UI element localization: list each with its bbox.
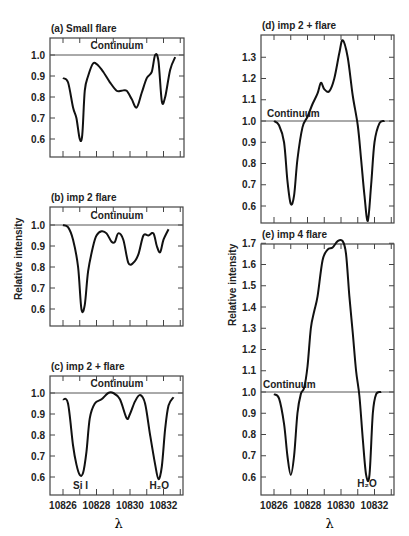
- y-axis-label-left: Relative intensity: [13, 217, 24, 300]
- y-tick-label: 0.7: [242, 450, 256, 461]
- h2o-line-label: H₂O: [357, 478, 377, 489]
- panel-frame: [261, 244, 394, 495]
- y-tick-label: 0.8: [242, 429, 256, 440]
- panel-title: (d) imp 2 + flare: [262, 20, 337, 31]
- spectral-line-figure: (a) Small flare0.60.70.80.91.0Continuum(…: [0, 0, 409, 536]
- y-axis-label-right: Relative intensity: [227, 243, 238, 326]
- y-tick-label: 1.0: [242, 116, 256, 127]
- y-tick-label: 1.5: [242, 280, 256, 291]
- x-axis-label: λ: [325, 516, 333, 531]
- y-tick-label: 1.0: [242, 387, 256, 398]
- y-tick-label: 0.6: [31, 472, 45, 483]
- spectrum-curve: [274, 240, 381, 481]
- y-tick-label: 1.6: [242, 259, 256, 270]
- x-tick-label: 10826: [49, 500, 77, 511]
- y-tick-label: 1.1: [242, 365, 256, 376]
- y-tick-label: 0.6: [242, 201, 256, 212]
- spectrum-curve: [274, 40, 385, 221]
- y-tick-label: 0.9: [31, 71, 45, 82]
- x-axis-label: λ: [114, 516, 122, 531]
- y-tick-label: 0.6: [242, 472, 256, 483]
- y-tick-label: 0.7: [31, 451, 45, 462]
- continuum-label: Continuum: [263, 379, 316, 390]
- y-tick-label: 0.6: [31, 304, 45, 315]
- spectrum-curve: [63, 225, 169, 312]
- x-tick-label: 10830: [116, 500, 144, 511]
- si-line-label: Si I: [73, 480, 88, 491]
- continuum-label: Continuum: [91, 210, 144, 221]
- x-tick-label: 10830: [327, 500, 355, 511]
- y-tick-label: 0.9: [31, 409, 45, 420]
- panel-title: (b) imp 2 flare: [51, 192, 117, 203]
- y-tick-label: 1.3: [242, 323, 256, 334]
- x-tick-label: 10828: [83, 500, 111, 511]
- y-tick-label: 1.0: [31, 388, 45, 399]
- y-tick-label: 0.7: [242, 179, 256, 190]
- x-tick-label: 10832: [150, 500, 178, 511]
- y-tick-label: 1.7: [242, 238, 256, 249]
- y-tick-label: 0.8: [31, 92, 45, 103]
- x-tick-label: 10826: [260, 500, 288, 511]
- y-tick-label: 0.6: [31, 134, 45, 145]
- continuum-label: Continuum: [91, 378, 144, 389]
- y-tick-label: 1.2: [242, 344, 256, 355]
- y-tick-label: 1.0: [31, 220, 45, 231]
- continuum-label: Continuum: [267, 108, 320, 119]
- panel-title: (c) imp 2 + flare: [51, 361, 125, 372]
- y-tick-label: 0.9: [242, 137, 256, 148]
- y-tick-label: 1.1: [242, 94, 256, 105]
- y-tick-label: 1.4: [242, 302, 256, 313]
- y-tick-label: 0.8: [242, 158, 256, 169]
- y-tick-label: 0.8: [31, 262, 45, 273]
- continuum-label: Continuum: [91, 40, 144, 51]
- y-tick-label: 1.3: [242, 52, 256, 63]
- y-tick-label: 1.0: [31, 50, 45, 61]
- panel-title: (a) Small flare: [51, 23, 117, 34]
- panel-title: (e) imp 4 flare: [262, 229, 327, 240]
- y-tick-label: 0.7: [31, 113, 45, 124]
- y-tick-label: 0.9: [31, 241, 45, 252]
- spectrum-curve: [63, 392, 174, 479]
- spectrum-curve: [63, 54, 175, 141]
- panel-frame: [50, 38, 184, 157]
- h2o-line-label: H₂O: [150, 480, 170, 491]
- x-tick-label: 10832: [361, 500, 389, 511]
- y-tick-label: 0.9: [242, 408, 256, 419]
- y-tick-label: 0.8: [31, 430, 45, 441]
- y-tick-label: 1.2: [242, 73, 256, 84]
- x-tick-label: 10828: [294, 500, 322, 511]
- y-tick-label: 0.7: [31, 283, 45, 294]
